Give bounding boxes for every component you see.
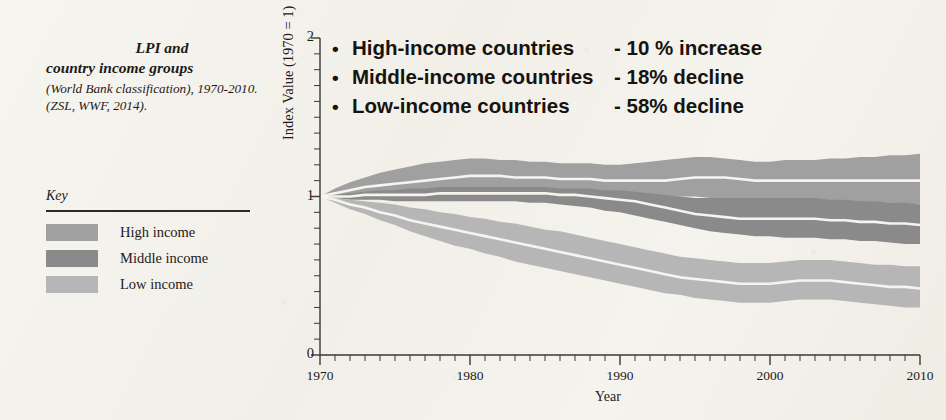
legend-item-middle-income: Middle income [46,250,278,267]
legend-item-low-income: Low income [46,276,278,293]
legend-label-low-income: Low income [120,276,193,293]
y-tick-label-0: 0 [290,345,314,362]
caption-line-2: country income groups [46,58,278,78]
legend-item-high-income: High income [46,224,278,241]
summary-bullet-list: • High-income countries - 10 % increase … [332,36,932,123]
y-tick-label-2: 2 [290,28,314,45]
bullet-value-middle-income: - 18% decline [614,65,744,89]
legend-label-middle-income: Middle income [120,250,208,267]
x-tick-label-1980: 1980 [448,368,492,384]
bullet-value-high-income: - 10 % increase [614,36,762,60]
x-axis-title: Year [284,389,932,405]
bullet-value-low-income: - 58% decline [614,94,744,118]
bullet-label-high-income: High-income countries [352,36,614,60]
bullet-low-income: • Low-income countries - 58% decline [332,94,932,118]
bullet-high-income: • High-income countries - 10 % increase [332,36,932,60]
bullet-dot-icon: • [332,96,352,118]
caption-source: (World Bank classification), 1970-2010. … [46,80,278,115]
legend-swatch-low-income [46,276,98,293]
bullet-dot-icon: • [332,67,352,89]
bullet-label-low-income: Low-income countries [352,94,614,118]
x-tick-label-2000: 2000 [748,368,792,384]
figure-caption: LPI and country income groups (World Ban… [46,38,278,115]
legend-divider [46,210,250,212]
legend-label-high-income: High income [120,224,195,241]
x-tick-label-2010: 2010 [898,368,942,384]
legend-title: Key [46,188,278,204]
bullet-middle-income: • Middle-income countries - 18% decline [332,65,932,89]
y-tick-label-1: 1 [290,187,314,204]
caption-line-1: LPI and [46,38,278,58]
bullet-dot-icon: • [332,38,352,60]
legend: Key High income Middle income Low income [46,188,278,302]
bullet-label-middle-income: Middle-income countries [352,65,614,89]
legend-swatch-middle-income [46,250,98,267]
x-tick-label-1990: 1990 [598,368,642,384]
legend-swatch-high-income [46,224,98,241]
x-tick-label-1970: 1970 [298,368,342,384]
